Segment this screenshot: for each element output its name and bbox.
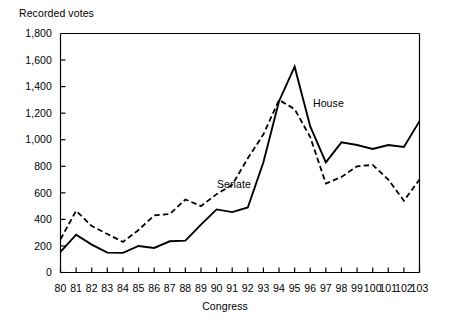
y-axis-tick-label: 1,200 bbox=[10, 108, 52, 119]
recorded-votes-line-chart: Recorded votes 02004006008001,0001,2001,… bbox=[0, 0, 450, 330]
series-label-house: House bbox=[313, 97, 344, 109]
y-axis-tick-label: 0 bbox=[10, 267, 52, 278]
y-axis-ticks bbox=[61, 60, 66, 272]
y-axis-tick-label: 800 bbox=[10, 161, 52, 172]
series-line-house bbox=[61, 67, 420, 253]
series-line-senate bbox=[61, 100, 420, 242]
x-axis-tick-label: 103 bbox=[407, 283, 433, 294]
y-axis-tick-label: 1,600 bbox=[10, 55, 52, 66]
y-axis-title: Recorded votes bbox=[19, 7, 94, 19]
plot-area bbox=[0, 0, 450, 330]
y-axis-tick-label: 600 bbox=[10, 188, 52, 199]
y-axis-tick-label: 400 bbox=[10, 214, 52, 225]
y-axis-tick-label: 1,800 bbox=[10, 28, 52, 39]
series-label-senate: Senate bbox=[217, 178, 251, 190]
y-axis-tick-label: 1,000 bbox=[10, 134, 52, 145]
y-axis-tick-label: 1,400 bbox=[10, 81, 52, 92]
x-axis-title: Congress bbox=[0, 300, 450, 312]
y-axis-tick-label: 200 bbox=[10, 241, 52, 252]
x-axis-ticks bbox=[61, 268, 420, 273]
